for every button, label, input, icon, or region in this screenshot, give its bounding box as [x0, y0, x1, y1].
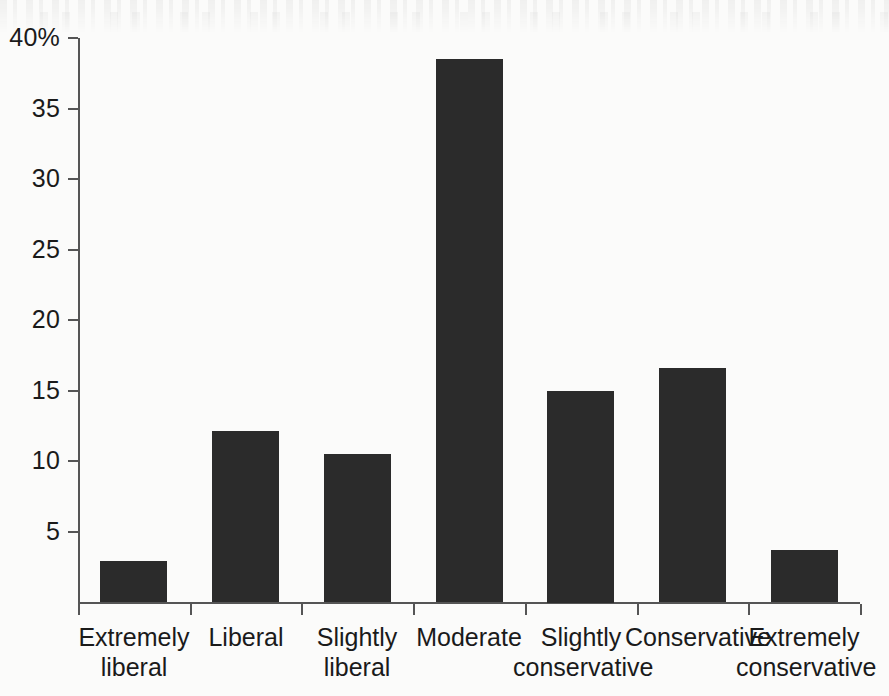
y-axis-tick-label: 35 — [0, 96, 60, 121]
y-axis-tick-label: 40% — [0, 25, 60, 50]
y-axis-tick — [68, 37, 78, 39]
y-axis-line — [78, 38, 80, 604]
x-axis-tick — [301, 604, 303, 615]
y-axis-tick-label-text: 20 — [32, 307, 60, 332]
x-axis-category-label-line2: liberal — [289, 652, 425, 682]
x-axis-tick — [190, 604, 192, 615]
y-axis-tick-label: 10 — [0, 448, 60, 473]
y-axis-tick — [68, 108, 78, 110]
y-axis-tick — [68, 460, 78, 462]
chart-page: 40%3530252015105ExtremelyliberalLiberalS… — [0, 0, 889, 696]
x-axis-tick — [525, 604, 527, 615]
x-axis-category-label-line2: conservative — [736, 652, 872, 682]
x-axis-tick — [413, 604, 415, 615]
x-axis-tick — [748, 604, 750, 615]
y-axis-tick-label: 15 — [0, 378, 60, 403]
y-axis-tick-label: 5 — [0, 519, 60, 544]
y-axis-tick-label: 25 — [0, 237, 60, 262]
y-axis-tick-label-text: 25 — [32, 237, 60, 262]
y-axis-tick-label-text: 15 — [32, 378, 60, 403]
bar — [547, 391, 614, 603]
y-axis-tick-label-text: 30 — [32, 166, 60, 191]
x-axis-category-label-line1: Extremely — [78, 623, 189, 651]
y-axis-tick-label-text: 35 — [32, 96, 60, 121]
y-axis-tick — [68, 390, 78, 392]
y-axis-tick-label-text: 5 — [46, 519, 60, 544]
bar — [100, 561, 167, 602]
x-axis-category-label-line1: Moderate — [416, 623, 522, 651]
bar-chart: 40%3530252015105ExtremelyliberalLiberalS… — [0, 0, 889, 696]
x-axis-category-label-line1: Slightly — [541, 623, 622, 651]
x-axis-category-label-line1: Slightly — [317, 623, 398, 651]
bar — [324, 454, 391, 602]
y-axis-tick-label: 20 — [0, 307, 60, 332]
y-axis-tick-label-text: 40% — [9, 25, 60, 50]
y-axis-tick-label-text: 10 — [32, 448, 60, 473]
y-axis-tick — [68, 531, 78, 533]
bar — [659, 368, 726, 602]
x-axis-category-label-line2: liberal — [66, 652, 202, 682]
x-axis-category-label-line2: conservative — [513, 652, 649, 682]
x-axis-line — [78, 602, 860, 604]
y-axis-tick — [68, 249, 78, 251]
bar — [212, 431, 279, 602]
bar — [436, 59, 503, 602]
x-axis-tick — [78, 604, 80, 615]
x-axis-category-label-line1: Extremely — [748, 623, 859, 651]
y-axis-tick — [68, 319, 78, 321]
x-axis-tick — [637, 604, 639, 615]
x-axis-tick — [860, 604, 862, 615]
y-axis-tick — [68, 178, 78, 180]
x-axis-category-label-line1: Liberal — [208, 623, 283, 651]
x-axis-category-label: Extremelyconservative — [736, 622, 872, 682]
y-axis-tick-label: 30 — [0, 166, 60, 191]
bar — [771, 550, 838, 602]
